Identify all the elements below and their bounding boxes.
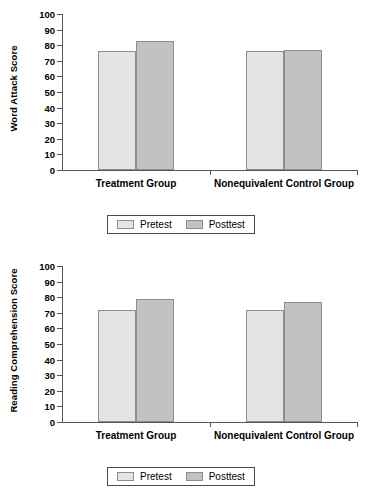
y-axis-tick [57, 282, 62, 283]
bar-pretest-treatment [98, 310, 136, 422]
chart-word-attack: Word Attack Score0102030405060708090100T… [0, 0, 379, 252]
plot-area: 0102030405060708090100Treatment GroupNon… [62, 14, 358, 170]
y-axis-tick [57, 76, 62, 77]
legend-label: Posttest [209, 219, 245, 230]
y-axis-tick-label: 30 [44, 118, 55, 129]
legend-item-posttest: Posttest [186, 471, 245, 482]
y-axis-tick-label: 40 [44, 354, 55, 365]
y-axis-line [62, 266, 63, 423]
y-axis-tick [57, 61, 62, 62]
y-axis-tick-label: 0 [50, 165, 55, 176]
legend-label: Pretest [140, 471, 172, 482]
y-axis-tick-label: 60 [44, 71, 55, 82]
y-axis-tick [57, 45, 62, 46]
y-axis-tick [57, 375, 62, 376]
bar-posttest-control [284, 302, 322, 422]
legend-swatch-posttest-icon [186, 220, 203, 229]
legend: PretestPosttest [107, 467, 255, 486]
y-axis-tick-label: 10 [44, 149, 55, 160]
legend: PretestPosttest [107, 215, 255, 234]
y-axis-tick-label: 10 [44, 401, 55, 412]
y-axis-tick [57, 313, 62, 314]
y-axis-title-text: Reading Comprehension Score [8, 268, 19, 412]
legend-swatch-posttest-icon [186, 472, 203, 481]
y-axis-tick-label: 70 [44, 55, 55, 66]
y-axis-tick-label: 30 [44, 370, 55, 381]
y-axis-tick-label: 100 [39, 9, 55, 20]
y-axis-tick-label: 50 [44, 87, 55, 98]
y-axis-tick [57, 170, 62, 171]
legend-swatch-pretest-icon [117, 220, 134, 229]
x-axis-category-label: Nonequivalent Control Group [210, 430, 358, 443]
y-axis-tick-label: 20 [44, 133, 55, 144]
y-axis-tick-label: 40 [44, 102, 55, 113]
y-axis-tick [57, 344, 62, 345]
figure-panel: Word Attack Score0102030405060708090100T… [0, 0, 379, 504]
x-axis-group-separator-tick [210, 170, 211, 175]
x-axis-group-separator-tick [210, 422, 211, 427]
legend-item-pretest: Pretest [117, 471, 172, 482]
y-axis-tick-label: 50 [44, 339, 55, 350]
y-axis-tick [57, 406, 62, 407]
y-axis-tick [57, 360, 62, 361]
bar-posttest-control [284, 50, 322, 170]
y-axis-tick [57, 92, 62, 93]
x-axis-category-label: Nonequivalent Control Group [210, 178, 358, 191]
bar-posttest-treatment [136, 299, 174, 422]
chart-reading-comprehension: Reading Comprehension Score0102030405060… [0, 252, 379, 504]
y-axis-tick [57, 139, 62, 140]
y-axis-tick [57, 266, 62, 267]
legend-label: Posttest [209, 471, 245, 482]
y-axis-tick-label: 80 [44, 292, 55, 303]
y-axis-tick-label: 0 [50, 417, 55, 428]
bar-posttest-treatment [136, 41, 174, 170]
legend-item-posttest: Posttest [186, 219, 245, 230]
y-axis-title: Reading Comprehension Score [0, 252, 26, 428]
y-axis-tick [57, 328, 62, 329]
x-axis-category-label: Treatment Group [62, 178, 210, 191]
y-axis-tick [57, 391, 62, 392]
y-axis-tick-label: 80 [44, 40, 55, 51]
y-axis-tick [57, 297, 62, 298]
plot-area: 0102030405060708090100Treatment GroupNon… [62, 266, 358, 422]
y-axis-tick-label: 60 [44, 323, 55, 334]
x-axis-end-tick [357, 170, 358, 175]
x-axis-end-tick [357, 422, 358, 427]
y-axis-title-text: Word Attack Score [8, 45, 19, 131]
y-axis-tick [57, 422, 62, 423]
y-axis-tick [57, 154, 62, 155]
bar-pretest-control [246, 51, 284, 170]
y-axis-tick-label: 20 [44, 385, 55, 396]
bar-pretest-control [246, 310, 284, 422]
y-axis-tick [57, 108, 62, 109]
legend-swatch-pretest-icon [117, 472, 134, 481]
y-axis-tick-label: 100 [39, 261, 55, 272]
y-axis-title: Word Attack Score [0, 0, 26, 176]
y-axis-tick-label: 90 [44, 24, 55, 35]
y-axis-tick [57, 30, 62, 31]
y-axis-tick [57, 123, 62, 124]
legend-item-pretest: Pretest [117, 219, 172, 230]
bar-pretest-treatment [98, 51, 136, 170]
y-axis-tick [57, 14, 62, 15]
legend-label: Pretest [140, 219, 172, 230]
y-axis-tick-label: 70 [44, 307, 55, 318]
y-axis-line [62, 14, 63, 171]
x-axis-category-label: Treatment Group [62, 430, 210, 443]
y-axis-tick-label: 90 [44, 276, 55, 287]
